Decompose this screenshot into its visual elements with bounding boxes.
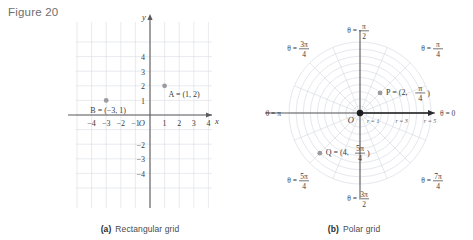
y-tick-label: −2 [136, 141, 145, 150]
y-tick-label: −4 [136, 170, 145, 179]
x-tick-label: 3 [192, 119, 196, 128]
polar-point-prefix-q: Q = (4, [326, 148, 349, 157]
y-tick-label: 2 [141, 82, 145, 91]
x-axis-label: x [214, 116, 219, 126]
point-label-a: A = (1, 2) [169, 90, 201, 99]
theta-3pi-4-denominator: 4 [302, 50, 306, 59]
x-tick-label: −4 [87, 119, 96, 128]
theta-3pi-4: θ = 3π4 [287, 40, 309, 59]
caption-b-tag: (b) [328, 224, 339, 234]
polar-point-numerator-q: 5π [356, 144, 364, 153]
polar-point-numerator-p: π [418, 84, 422, 93]
theta-7pi-4-denominator: 4 [436, 182, 440, 191]
panel-rectangular-grid: −4−3−2−112344321−2−3−4Oxy A = (1, 2)B = … [60, 8, 220, 240]
polar-point-marker-q [317, 151, 322, 156]
theta-pi-4-prefix: θ = [421, 44, 431, 53]
theta-3pi-2: θ = 3π2 [347, 190, 369, 209]
y-tick-label: −3 [136, 155, 145, 164]
theta-5pi-4: θ = 5π4 [287, 172, 309, 191]
theta-3pi-2-numerator: 3π [360, 190, 368, 199]
theta-3pi-2-prefix: θ = [347, 194, 357, 203]
polar-origin-dot [357, 110, 363, 116]
x-tick-label: 2 [177, 119, 181, 128]
theta-3pi-4-numerator: 3π [300, 40, 308, 49]
caption-a: (a)Rectangular grid [60, 224, 220, 234]
polar-point-label-q: Q = (4,5π4) [326, 144, 370, 163]
theta-pi-2-denominator: 2 [362, 32, 366, 41]
theta-pi-4: θ = π4 [421, 40, 443, 59]
polar-point-prefix-p: P = (2, [386, 88, 407, 97]
theta-pi-4-denominator: 4 [436, 50, 440, 59]
r-label-3: r = 3 [395, 118, 407, 124]
polar-point-denominator-q: 4 [358, 154, 362, 163]
theta-0: θ = 0 [440, 109, 456, 118]
polar-grid-svg: Or = 1r = 3r = 5 P = (2,π4)Q = (4,5π4) θ… [235, 8, 473, 213]
theta-5pi-4-prefix: θ = [287, 176, 297, 185]
theta-pi-2-numerator: π [362, 22, 366, 31]
rectangular-grid-svg: −4−3−2−112344321−2−3−4Oxy A = (1, 2)B = … [60, 8, 220, 213]
theta-5pi-4-denominator: 4 [302, 182, 306, 191]
theta-pi-2: θ = π2 [347, 22, 369, 41]
r-label-5: r = 5 [424, 118, 436, 124]
figure-page: Figure 20 −4−3−2−112344321−2−3−4Oxy A = … [0, 0, 473, 240]
theta-3pi-4-prefix: θ = [287, 44, 297, 53]
theta-7pi-4-prefix: θ = [421, 176, 431, 185]
y-tick-label: 3 [141, 68, 145, 77]
polar-point-denominator-p: 4 [418, 94, 422, 103]
y-axis-arrow [147, 14, 152, 20]
caption-b: (b)Polar grid [235, 224, 473, 234]
caption-a-text: Rectangular grid [115, 224, 179, 234]
y-tick-label: 1 [141, 97, 145, 106]
polar-origin-label: O [348, 115, 354, 125]
polar-point-marker-p [378, 91, 383, 96]
x-tick-label: 1 [163, 119, 167, 128]
caption-a-tag: (a) [101, 224, 112, 234]
figure-number-label: Figure 20 [8, 6, 58, 18]
theta-pi-2-prefix: θ = [347, 26, 357, 35]
panel-polar-grid: Or = 1r = 3r = 5 P = (2,π4)Q = (4,5π4) θ… [235, 8, 473, 240]
polar-axis-arrow [428, 110, 435, 116]
polar-point-close-paren-p: ) [427, 89, 430, 98]
theta-5pi-4-numerator: 5π [300, 172, 308, 181]
y-tick-label: 4 [141, 53, 145, 62]
x-tick-label: 4 [206, 119, 210, 128]
x-axis-arrow [206, 112, 212, 117]
rect-points-group: A = (1, 2)B = (−3, 1) [90, 83, 200, 115]
theta-3pi-2-denominator: 2 [362, 200, 366, 209]
origin-label: O [139, 118, 145, 128]
point-label-b: B = (−3, 1) [90, 106, 126, 115]
theta-7pi-4-numerator: 7π [434, 172, 442, 181]
y-axis-label: y [141, 12, 146, 22]
x-tick-label: −2 [117, 119, 126, 128]
caption-b-text: Polar grid [343, 224, 380, 234]
theta-pi-4-numerator: π [436, 40, 440, 49]
x-tick-label: −3 [102, 119, 111, 128]
point-marker-a [162, 83, 167, 88]
point-marker-b [104, 98, 109, 103]
polar-point-close-paren-q: ) [367, 149, 370, 158]
r-label-1: r = 1 [367, 118, 379, 124]
theta-7pi-4: θ = 7π4 [421, 172, 443, 191]
theta-pi: θ = π [266, 109, 282, 118]
